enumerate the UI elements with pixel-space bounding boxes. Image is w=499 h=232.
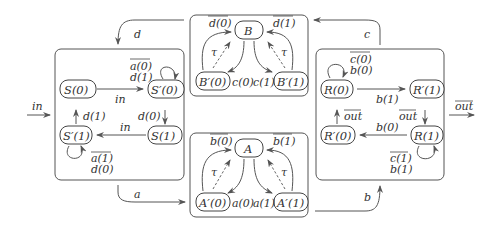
protocol-diagram: S(0) S′(0) S(1) S′(1) in a(0) d(1) d(0) …: [0, 0, 499, 232]
svg-text:d(0): d(0): [91, 163, 114, 176]
svg-text:R(0): R(0): [323, 83, 349, 97]
svg-text:τ: τ: [211, 166, 218, 179]
edge-bp1-b: [267, 32, 293, 70]
svg-text:d(0): d(0): [209, 17, 232, 30]
svg-text:d(0): d(0): [138, 110, 161, 123]
edge-b-bp0: [228, 41, 244, 72]
edge-ap1-a: [267, 150, 293, 191]
loop-sp1: [67, 146, 82, 158]
svg-text:R′(0): R′(0): [323, 129, 352, 143]
svg-text:B′(0): B′(0): [198, 75, 226, 89]
state-s1: S(1): [148, 126, 182, 144]
edge-label: in: [115, 93, 126, 106]
state-r0: R(0): [321, 80, 353, 98]
channel-d-arrow: [118, 20, 184, 44]
channel-c-label: c: [364, 28, 370, 41]
svg-text:A′(0): A′(0): [198, 196, 226, 210]
svg-text:τ: τ: [281, 46, 288, 59]
svg-text:A′(1): A′(1): [276, 196, 304, 210]
svg-text:R′(1): R′(1): [412, 83, 441, 97]
channel-d-label: d: [134, 28, 141, 41]
state-ap1: A′(1): [274, 193, 308, 211]
svg-text:A: A: [243, 142, 252, 156]
channel-a-component: A A′(0) A′(1) b(0) b(1) a(0) a(1) τ τ: [190, 133, 308, 217]
input-label: in: [32, 100, 43, 113]
channel-b-component: B B′(0) B′(1) d(0) d(1) c(0) c(1) τ τ: [190, 15, 308, 96]
svg-text:b(0): b(0): [376, 121, 399, 134]
loop-r1: [417, 146, 434, 159]
state-rp1: R′(1): [410, 80, 444, 98]
svg-text:b(0): b(0): [350, 64, 373, 77]
edge-a-ap0: [228, 159, 244, 193]
svg-text:S′(1): S′(1): [63, 129, 90, 143]
svg-text:b(1): b(1): [273, 135, 296, 148]
svg-text:out: out: [399, 110, 418, 123]
state-bp0: B′(0): [196, 72, 230, 90]
svg-text:B′(1): B′(1): [276, 75, 304, 89]
output-label: out: [455, 100, 474, 113]
loop-sp0: [161, 67, 176, 79]
state-s0: S(0): [60, 80, 96, 98]
state-sp0: S′(0): [148, 80, 184, 98]
state-r1: R(1): [411, 126, 443, 144]
svg-text:d(1): d(1): [273, 17, 296, 30]
svg-text:b(0): b(0): [210, 135, 233, 148]
svg-text:S(1): S(1): [151, 129, 175, 143]
svg-text:d(1): d(1): [130, 71, 153, 84]
svg-text:out: out: [344, 110, 363, 123]
svg-text:S′(0): S′(0): [151, 83, 178, 97]
svg-text:τ: τ: [211, 46, 218, 59]
state-ap0: A′(0): [196, 193, 230, 211]
state-sp1: S′(1): [60, 126, 92, 144]
svg-text:B: B: [243, 24, 252, 38]
svg-text:b(1): b(1): [376, 93, 399, 106]
svg-text:d(1): d(1): [83, 110, 106, 123]
state-bp1: B′(1): [274, 72, 308, 90]
channel-a-label: a: [134, 188, 141, 201]
state-b: B: [235, 21, 263, 39]
edge-a-ap1: [254, 159, 272, 193]
svg-text:R(1): R(1): [413, 129, 439, 143]
svg-text:in: in: [120, 121, 131, 134]
edge-b-bp1: [254, 41, 272, 72]
loop-r0: [328, 64, 344, 78]
receiver-component: R(0) R′(1) R(1) R′(0) c(0) b(0) b(1) out…: [316, 49, 444, 180]
svg-text:a(1): a(1): [253, 197, 275, 210]
svg-text:c(0): c(0): [232, 76, 254, 89]
svg-text:b(1): b(1): [390, 163, 413, 176]
channel-a-arrow: [118, 185, 185, 202]
sender-component: S(0) S′(0) S(1) S′(1) in a(0) d(1) d(0) …: [55, 49, 184, 180]
svg-text:a(0): a(0): [232, 197, 254, 210]
svg-text:τ: τ: [281, 166, 288, 179]
svg-text:S(0): S(0): [64, 83, 88, 97]
svg-text:c(1): c(1): [253, 76, 275, 89]
state-rp0: R′(0): [321, 126, 355, 144]
channel-b-label: b: [364, 191, 371, 204]
state-a: A: [235, 139, 263, 157]
